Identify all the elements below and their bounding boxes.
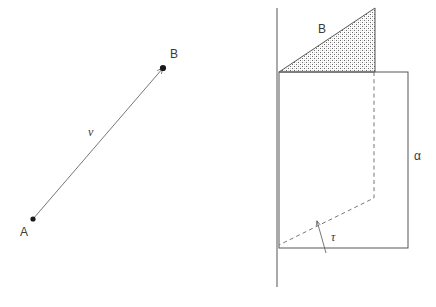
tau-angle-label: τ [331,230,336,244]
point-b-dot [160,65,166,71]
point-a-dot [30,216,35,221]
hidden-edge-dashed [279,72,374,245]
vector-magnitude-label: v [88,125,94,139]
triangle-region-b [279,8,375,72]
vector-arrow-ab [33,68,163,219]
point-b-label: B [170,47,178,61]
point-a-label: A [20,225,28,239]
vector-diagram-group: A B v [20,47,178,239]
prism-diagram-group: B α τ [277,8,421,287]
rectangle-region-alpha [279,72,408,248]
alpha-region-label: α [414,149,421,163]
figure-root: A B v B α τ [0,0,436,307]
diagram-canvas: A B v B α τ [0,0,436,307]
beta-region-label: B [318,22,326,36]
